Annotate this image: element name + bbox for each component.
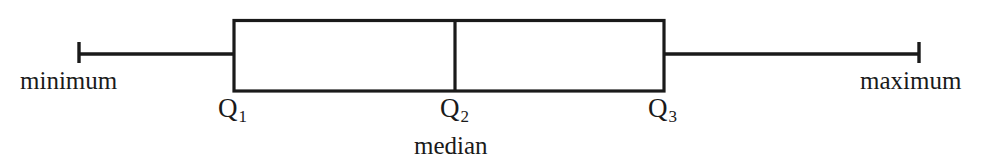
q1-subscript: 1 bbox=[239, 107, 248, 126]
q2-subscript: 2 bbox=[461, 107, 470, 126]
q2-letter: Q bbox=[440, 93, 460, 123]
median-label: median bbox=[414, 133, 488, 158]
box-plot-figure: minimum maximum Q1 Q2 Q3 median bbox=[0, 0, 982, 164]
q1-letter: Q bbox=[218, 93, 238, 123]
minimum-label: minimum bbox=[20, 68, 117, 93]
q3-subscript: 3 bbox=[669, 107, 678, 126]
q2-label: Q2 bbox=[440, 95, 468, 122]
q3-letter: Q bbox=[648, 93, 668, 123]
q1-label: Q1 bbox=[218, 95, 246, 122]
box-plot-graphic bbox=[0, 0, 982, 164]
interquartile-box bbox=[234, 21, 664, 92]
q3-label: Q3 bbox=[648, 95, 676, 122]
maximum-label: maximum bbox=[860, 68, 961, 93]
